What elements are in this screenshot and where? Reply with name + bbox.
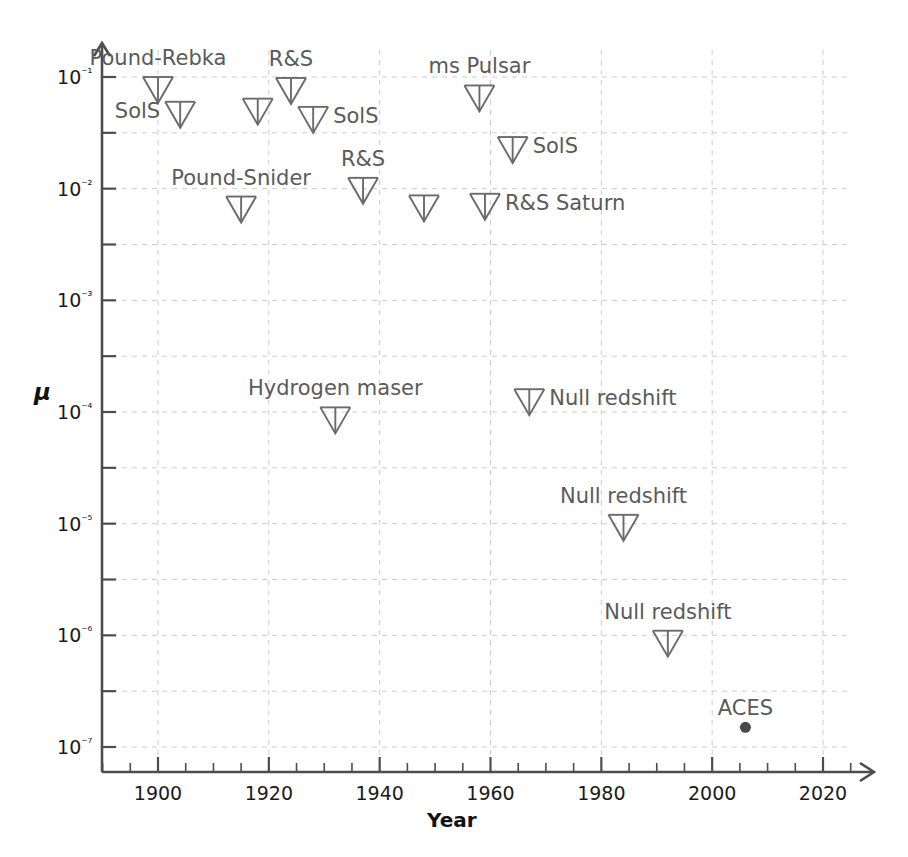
data-marker-hydrogen-maser: [320, 407, 350, 433]
data-marker-unlabeled-1918: [243, 99, 273, 125]
data-marker-pound-snider: [226, 197, 256, 223]
point-label-null-redshift-2: Null redshift: [560, 484, 687, 508]
point-label-aces: ACES: [718, 696, 773, 720]
gridlines: [102, 50, 852, 772]
data-marker-rs-1: [276, 78, 306, 104]
y-tick-label: 10⁻⁴: [20, 401, 92, 423]
x-tick-label: 1940: [355, 782, 403, 804]
x-tick-label: 1980: [577, 782, 625, 804]
y-tick-label: 10⁻⁵: [20, 512, 92, 534]
data-marker-rs-saturn: [470, 194, 500, 220]
point-label-hydrogen-maser: Hydrogen maser: [248, 376, 423, 400]
data-marker-ms-pulsar: [464, 85, 494, 111]
point-label-rs-1: R&S: [269, 47, 313, 71]
x-tick-label: 1920: [245, 782, 293, 804]
data-marker-aces: [740, 722, 751, 733]
x-tick-label: 1960: [466, 782, 514, 804]
x-tick-label: 2020: [799, 782, 847, 804]
point-label-sols-1: SolS: [115, 99, 160, 123]
point-label-rs-saturn: R&S Saturn: [505, 191, 625, 215]
point-label-pound-rebka: Pound-Rebka: [90, 46, 227, 70]
data-marker-unlabeled-1948: [409, 195, 439, 221]
y-tick-label: 10⁻¹: [20, 66, 92, 88]
y-tick-label: 10⁻⁷: [20, 736, 92, 758]
point-label-null-redshift-1: Null redshift: [549, 386, 676, 410]
data-marker-null-redshift-2: [609, 515, 639, 541]
data-marker-rs-2: [348, 178, 378, 204]
y-tick-label: 10⁻⁶: [20, 624, 92, 646]
point-label-ms-pulsar: ms Pulsar: [428, 54, 530, 78]
x-tick-label: 2000: [688, 782, 736, 804]
point-label-rs-2: R&S: [341, 147, 385, 171]
point-label-pound-snider: Pound-Snider: [171, 166, 311, 190]
redshift-limits-chart: 10⁻¹10⁻²10⁻³10⁻⁴10⁻⁵10⁻⁶10⁻⁷ 19001920194…: [0, 0, 908, 857]
data-marker-sols-2: [298, 107, 328, 133]
data-marker-sols-1: [165, 102, 195, 128]
point-label-sols-2: SolS: [333, 104, 378, 128]
point-label-sols-3: SolS: [533, 134, 578, 158]
data-marker-null-redshift-3: [653, 631, 683, 657]
y-tick-label: 10⁻³: [20, 289, 92, 311]
point-label-null-redshift-3: Null redshift: [604, 600, 731, 624]
x-axis-title: Year: [427, 808, 477, 832]
data-marker-null-redshift-1: [514, 389, 544, 415]
chart-canvas: [0, 0, 908, 857]
data-marker-sols-3: [498, 137, 528, 163]
y-axis-title: μ: [34, 379, 51, 405]
x-tick-label: 1900: [134, 782, 182, 804]
y-tick-label: 10⁻²: [20, 177, 92, 199]
